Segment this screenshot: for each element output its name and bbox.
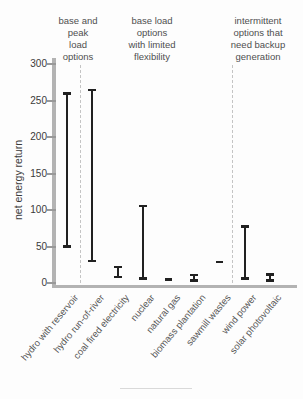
range-bar-bottom-cap <box>266 279 274 282</box>
range-bar-dash <box>165 278 172 281</box>
range-bar-top-cap <box>241 225 249 228</box>
group-label: base andpeakloadoptions <box>36 15 120 63</box>
range-bar-top-cap <box>88 89 96 92</box>
y-tick-mark <box>47 246 56 248</box>
page-artifact-line <box>120 388 192 389</box>
y-tick-mark <box>47 136 56 138</box>
group-label: intermittentoptions thatneed backupgener… <box>216 15 300 63</box>
range-bar-bottom-cap <box>139 277 147 280</box>
range-bar-line <box>91 90 93 262</box>
net-energy-return-chart: net energy return 050100150200250300hydr… <box>0 0 303 399</box>
x-axis-line <box>52 285 297 288</box>
range-bar-top-cap <box>114 266 122 269</box>
y-tick-label: 50 <box>13 241 47 252</box>
range-bar-bottom-cap <box>114 276 122 279</box>
y-tick-mark <box>47 173 56 175</box>
range-bar-top-cap <box>139 205 147 208</box>
range-bar-line <box>244 226 246 279</box>
group-label: base loadoptionswith limitedflexibility <box>110 15 194 63</box>
y-tick-label: 250 <box>13 95 47 106</box>
range-bar-top-cap <box>266 273 274 276</box>
group-separator-dashed-line <box>232 65 233 283</box>
y-tick-label: 200 <box>13 131 47 142</box>
y-tick-label: 0 <box>13 277 47 288</box>
range-bar-line <box>66 93 68 246</box>
y-tick-label: 150 <box>13 168 47 179</box>
y-tick-mark <box>47 63 56 65</box>
range-bar-line <box>142 206 144 279</box>
y-tick-mark <box>47 100 56 102</box>
range-bar-bottom-cap <box>190 279 198 282</box>
y-tick-label: 100 <box>13 204 47 215</box>
y-tick-mark <box>47 209 56 211</box>
range-bar-bottom-cap <box>63 245 71 248</box>
plot-area: 050100150200250300hydro with reservoirhy… <box>0 0 303 399</box>
range-bar-top-cap <box>190 274 198 277</box>
y-tick-mark <box>47 282 56 284</box>
range-bar-bottom-cap <box>88 260 96 263</box>
group-separator-dashed-line <box>80 65 81 283</box>
range-bar-top-cap <box>63 92 71 95</box>
range-bar-dash <box>216 261 223 264</box>
range-bar-bottom-cap <box>241 277 249 280</box>
